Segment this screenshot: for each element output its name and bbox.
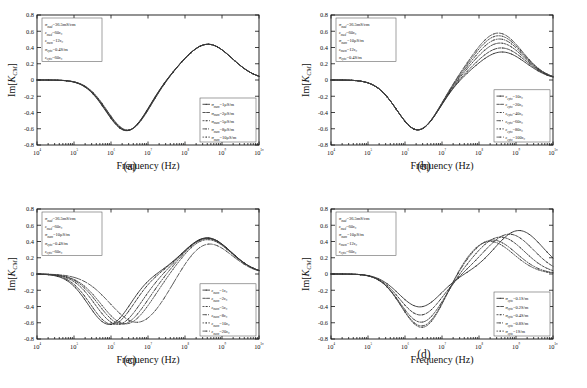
curve-marker <box>511 252 512 253</box>
curve-marker <box>476 50 477 51</box>
y-axis-label: Im[KCM] <box>6 257 18 291</box>
curve-marker <box>440 105 441 106</box>
curve-marker <box>502 39 503 40</box>
curve-marker <box>449 285 450 286</box>
curve-marker <box>226 251 227 252</box>
four-panel-plot: 10⁴10⁵10⁶10⁷10⁸10⁹10¹⁰-0.8-0.6-0.4-0.200… <box>0 0 587 388</box>
x-tick-label: 10¹⁰ <box>548 148 558 156</box>
curve-marker <box>511 39 512 40</box>
curve-marker <box>84 287 85 288</box>
curve-marker <box>66 80 67 81</box>
curve-marker <box>217 47 218 48</box>
curve-marker <box>137 307 138 308</box>
curve-marker <box>146 301 147 302</box>
panel-c: 10⁴10⁵10⁶10⁷10⁸10⁹10¹⁰-0.8-0.6-0.4-0.200… <box>6 205 264 366</box>
x-tick-label: 10⁸ <box>475 342 483 350</box>
curve-marker <box>493 53 494 54</box>
curve-marker <box>102 321 103 322</box>
curve-marker <box>538 269 539 270</box>
x-tick-label: 10¹⁰ <box>254 148 264 156</box>
legend-marker <box>206 322 207 323</box>
curve-marker <box>520 49 521 50</box>
x-tick-label: 10⁴ <box>327 148 335 156</box>
curve-marker <box>547 252 548 253</box>
curve-marker <box>146 318 147 319</box>
x-tick-label: 10⁶ <box>107 148 115 156</box>
curve-marker <box>226 53 227 54</box>
curve-marker <box>111 318 112 319</box>
curve-marker <box>102 295 103 296</box>
curve-marker <box>502 52 503 53</box>
x-tick-label: 10⁹ <box>218 148 226 156</box>
curve-marker <box>351 80 352 81</box>
curve-marker <box>93 287 94 288</box>
y-tick-label: -0.2 <box>24 287 34 294</box>
x-tick-label: 10⁴ <box>33 342 41 350</box>
y-tick-label: -0.4 <box>318 109 329 116</box>
legend-marker <box>500 128 501 129</box>
y-tick-label: 0.2 <box>26 60 34 67</box>
curve-marker <box>502 36 503 37</box>
curve-marker <box>493 238 494 239</box>
curve-marker <box>413 323 414 324</box>
curve-marker <box>431 309 432 310</box>
curve-marker <box>182 61 183 62</box>
curve-marker <box>422 325 423 326</box>
curve-marker <box>476 52 477 53</box>
curve-marker <box>431 119 432 120</box>
x-tick-label: 10⁴ <box>33 148 41 156</box>
curve-marker <box>155 282 156 283</box>
curve-marker <box>493 36 494 37</box>
curve-marker <box>476 65 477 66</box>
figure-container: 10⁴10⁵10⁶10⁷10⁸10⁹10¹⁰-0.8-0.6-0.4-0.200… <box>0 0 587 388</box>
legend-marker <box>206 104 207 105</box>
curve-marker <box>226 248 227 249</box>
curve-marker <box>413 128 414 129</box>
curve-marker <box>173 283 174 284</box>
curve-marker <box>128 306 129 307</box>
curve-marker <box>155 98 156 99</box>
curve-marker <box>440 306 441 307</box>
curve-marker <box>208 239 209 240</box>
curve-marker <box>111 315 112 316</box>
curve-marker <box>529 234 530 235</box>
legend-marker <box>500 96 501 97</box>
curve-marker <box>538 68 539 69</box>
y-tick-label: 0.8 <box>26 205 34 212</box>
y-tick-label: 0.4 <box>320 44 329 51</box>
y-tick-label: -0.6 <box>24 319 34 326</box>
curve-marker <box>190 248 191 249</box>
curve-marker <box>208 244 209 245</box>
curve-marker <box>155 274 156 275</box>
legend-marker <box>206 120 207 121</box>
curve-marker <box>111 304 112 305</box>
curve-marker <box>75 280 76 281</box>
curve-marker <box>529 265 530 266</box>
curve-marker <box>199 247 200 248</box>
curve-marker <box>182 268 183 269</box>
legend-marker <box>500 104 501 105</box>
curve-marker <box>547 74 548 75</box>
curve-marker <box>217 245 218 246</box>
curve-marker <box>173 263 174 264</box>
y-axis-label: Im[KCM] <box>300 257 312 291</box>
curve-marker <box>93 294 94 295</box>
x-tick-label: 10⁶ <box>107 342 115 350</box>
curve-marker <box>396 294 397 295</box>
curve-marker <box>199 241 200 242</box>
curve-marker <box>467 268 468 269</box>
curve-marker <box>93 297 94 298</box>
curve-marker <box>75 282 76 283</box>
curve-marker <box>199 46 200 47</box>
y-tick-label: 0.2 <box>26 254 34 261</box>
curve-marker <box>84 290 85 291</box>
y-tick-label: 0 <box>31 76 34 83</box>
curve-marker <box>93 92 94 93</box>
curve-marker <box>235 256 236 257</box>
curve-marker <box>137 317 138 318</box>
curve-marker <box>75 285 76 286</box>
curve-marker <box>128 130 129 131</box>
curve-marker <box>102 103 103 104</box>
x-tick-label: 10⁵ <box>364 148 372 156</box>
curve-marker <box>208 44 209 45</box>
